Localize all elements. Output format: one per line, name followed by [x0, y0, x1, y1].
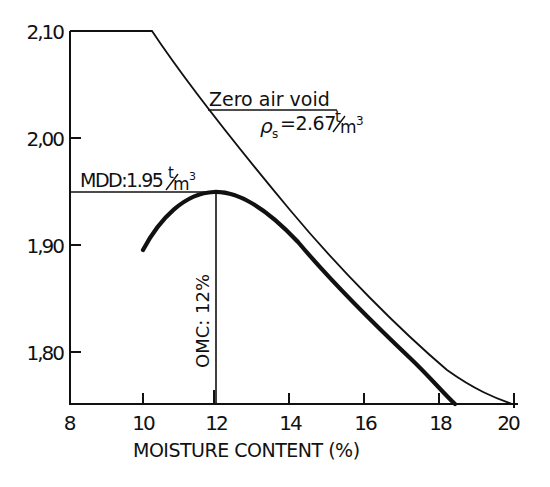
x-tick-labels: 8 10 12 14 16 18 20: [64, 411, 520, 435]
y-tick-label: 1,90: [26, 234, 64, 258]
y-tick-label: 1,80: [26, 341, 64, 365]
x-axis-title: MOISTURE CONTENT (%): [133, 439, 360, 461]
y-tick-label: 2,00: [26, 127, 64, 151]
x-tick-label: 14: [279, 411, 302, 435]
mdd-unit-den: m: [173, 174, 190, 194]
x-tick-label: 8: [64, 411, 77, 435]
y-tick-labels: 2,10 2,00 1,90 1,80: [26, 20, 64, 365]
zav-density-value: =2.67: [280, 112, 336, 134]
x-ticks: [143, 390, 514, 408]
omc-label: OMC: 12%: [192, 274, 213, 368]
mdd-label: MDD:1.95: [80, 169, 163, 191]
compaction-curve: [143, 192, 455, 404]
zav-annotation: Zero air void ρ s =2.67 t m 3: [208, 88, 364, 141]
compaction-chart: 2,10 2,00 1,90 1,80 8 10 12 14 16 18 20 …: [0, 0, 550, 487]
mdd-unit-exp: 3: [189, 170, 196, 183]
zav-unit-exp: 3: [356, 114, 364, 128]
x-tick-label: 12: [205, 411, 227, 435]
zero-air-void-line: [70, 31, 512, 404]
zav-density-sub: s: [272, 127, 278, 141]
x-tick-label: 10: [132, 411, 155, 435]
x-tick-label: 18: [429, 411, 452, 435]
zav-label: Zero air void: [209, 88, 330, 110]
x-tick-label: 16: [354, 411, 377, 435]
mdd-annotation: MDD:1.95 t m 3: [80, 164, 196, 194]
y-tick-label: 2,10: [26, 20, 64, 44]
zav-unit-den: m: [340, 117, 357, 137]
x-tick-label: 20: [497, 411, 520, 435]
